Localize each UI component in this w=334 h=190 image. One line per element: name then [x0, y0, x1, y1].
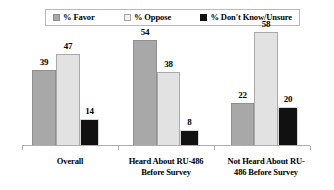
bar-overall-dontknow [80, 119, 99, 146]
legend-swatch-oppose-icon [124, 14, 131, 21]
plot-area: 39 47 14 54 38 8 22 58 20 [0, 26, 334, 146]
category-label-line2: Before Survey [118, 167, 214, 178]
bar-value-heard-oppose: 38 [157, 60, 180, 69]
bar-notheard-dontknow [278, 107, 298, 146]
bar-heard-favor [133, 40, 157, 146]
bar-value-heard-dontknow: 8 [179, 118, 200, 127]
bar-notheard-favor [231, 103, 254, 146]
legend-swatch-dontknow-icon [200, 14, 207, 21]
bar-value-overall-dontknow: 14 [79, 107, 100, 116]
bar-heard-oppose [157, 72, 180, 146]
legend-label-favor: % Favor [63, 13, 95, 22]
category-label-line2: 486 Before Survey [216, 167, 316, 178]
x-axis-category-label-notheard: Not Heard About RU- 486 Before Survey [216, 156, 316, 178]
legend-label-oppose: % Oppose [134, 13, 171, 22]
bar-overall-favor [32, 70, 56, 146]
x-axis-tick [118, 146, 119, 150]
bar-value-notheard-oppose: 58 [254, 20, 278, 29]
bar-value-overall-favor: 39 [32, 58, 56, 67]
x-axis-line [22, 145, 310, 146]
bar-heard-dontknow [180, 130, 199, 146]
category-label-line1: Not Heard About RU- [216, 156, 316, 167]
legend-label-dontknow: % Don't Know/Unsure [210, 13, 292, 22]
x-axis-tick [310, 146, 311, 150]
legend-item-favor: % Favor [53, 13, 95, 22]
bar-notheard-oppose [254, 32, 278, 146]
x-axis-tick [22, 146, 23, 150]
x-axis-category-label-heard: Heard About RU-486 Before Survey [118, 156, 214, 178]
bar-value-overall-oppose: 47 [56, 42, 80, 51]
bar-value-notheard-favor: 22 [231, 91, 254, 100]
legend-item-dontknow: % Don't Know/Unsure [200, 13, 292, 22]
bar-overall-oppose [56, 54, 80, 146]
category-label-line1: Overall [24, 156, 116, 167]
bar-chart: % Favor % Oppose % Don't Know/Unsure 39 … [0, 0, 334, 190]
x-axis-tick [214, 146, 215, 150]
legend-item-oppose: % Oppose [124, 13, 171, 22]
category-label-line1: Heard About RU-486 [118, 156, 214, 167]
bar-value-notheard-dontknow: 20 [278, 95, 298, 104]
legend-swatch-favor-icon [53, 14, 60, 21]
bar-value-heard-favor: 54 [133, 28, 157, 37]
x-axis-category-label-overall: Overall [24, 156, 116, 167]
